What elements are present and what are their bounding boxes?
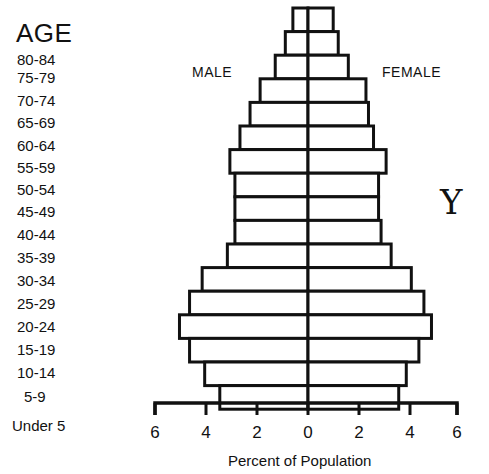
male-bar-70-74 <box>275 55 308 79</box>
male-bar-25-29 <box>202 268 308 292</box>
female-bar-50-54 <box>308 150 386 174</box>
x-tick-label: 2 <box>354 423 363 443</box>
female-bar-55-59 <box>308 126 374 150</box>
female-bar-25-29 <box>308 268 411 292</box>
male-bar-40-44 <box>235 197 308 221</box>
male-bar-20-24 <box>190 291 308 315</box>
male-bar-35-39 <box>235 220 308 244</box>
male-bar-30-34 <box>227 244 308 268</box>
female-bar-40-44 <box>308 197 379 221</box>
bars-group <box>179 8 431 409</box>
female-bar-5-9 <box>308 362 406 386</box>
x-tick-label: 4 <box>405 423 414 443</box>
male-bar-65-69 <box>260 79 308 103</box>
female-bar-70-74 <box>308 55 348 79</box>
female-bar-30-34 <box>308 244 391 268</box>
male-bar-80-84 <box>293 8 308 32</box>
male-bar-5-9 <box>205 362 308 386</box>
x-tick-label: 0 <box>303 423 312 443</box>
x-tick-label: 2 <box>252 423 261 443</box>
male-bar-15-19 <box>179 315 308 339</box>
x-axis-label: Percent of Population <box>228 452 371 469</box>
female-bar-80-84 <box>308 8 333 32</box>
male-bar-45-49 <box>235 173 308 197</box>
x-tick-label: 4 <box>201 423 210 443</box>
female-bar-Under 5 <box>308 386 399 410</box>
male-bar-Under 5 <box>220 386 308 410</box>
pyramid-chart <box>0 0 489 474</box>
x-tick-label: 6 <box>452 423 461 443</box>
female-bar-65-69 <box>308 79 366 103</box>
male-bar-50-54 <box>230 150 308 174</box>
female-bar-60-64 <box>308 102 368 126</box>
female-bar-35-39 <box>308 220 381 244</box>
female-bar-20-24 <box>308 291 424 315</box>
male-bar-10-14 <box>190 338 308 362</box>
male-bar-60-64 <box>250 102 308 126</box>
x-tick-label: 6 <box>150 423 159 443</box>
female-bar-45-49 <box>308 173 379 197</box>
female-bar-75-79 <box>308 32 338 56</box>
male-bar-75-79 <box>285 32 308 56</box>
male-bar-55-59 <box>240 126 308 150</box>
female-bar-15-19 <box>308 315 431 339</box>
female-bar-10-14 <box>308 338 419 362</box>
